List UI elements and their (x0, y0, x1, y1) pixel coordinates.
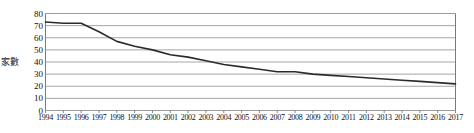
x-axis-tick-label: 2004 (216, 113, 231, 122)
x-axis-tick-label: 1999 (127, 113, 142, 122)
x-axis-tick-label: 2015 (412, 113, 427, 122)
x-axis-tick-label: 1998 (109, 113, 124, 122)
x-axis-tick-label: 2012 (359, 113, 374, 122)
x-axis-tick-label: 2010 (323, 113, 338, 122)
x-axis-tick-label: 2014 (395, 113, 410, 122)
x-axis-tick-label: 1996 (74, 113, 89, 122)
x-axis-tick-label: 2016 (430, 113, 445, 122)
x-axis-tick-label: 2006 (252, 113, 267, 122)
x-axis-tick-label: 2007 (270, 113, 285, 122)
x-axis-tick-labels: 1994199519961997199819992000200120022003… (0, 0, 474, 133)
x-axis-tick-label: 2009 (305, 113, 320, 122)
x-axis-tick-label: 2005 (234, 113, 249, 122)
x-axis-tick-label: 2002 (181, 113, 196, 122)
x-axis-tick-label: 1997 (92, 113, 107, 122)
line-chart: 家數 01020304050607080 1994199519961997199… (0, 0, 474, 133)
x-axis-tick-label: 1994 (38, 113, 53, 122)
x-axis-tick-label: 2017 (448, 113, 463, 122)
x-axis-tick-label: 2008 (288, 113, 303, 122)
x-axis-tick-label: 2003 (199, 113, 214, 122)
x-axis-tick-label: 2000 (145, 113, 160, 122)
x-axis-tick-label: 2011 (341, 113, 356, 122)
x-axis-tick-label: 1995 (56, 113, 71, 122)
x-axis-tick-label: 2001 (163, 113, 178, 122)
x-axis-tick-label: 2013 (377, 113, 392, 122)
